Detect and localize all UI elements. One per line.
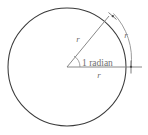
label-horizontal-radius: r [97, 70, 101, 80]
radian-diagram-canvas: r r r 1 radian [0, 0, 148, 135]
arc-length-indicator [114, 14, 132, 68]
arc-end-arrowhead [130, 66, 132, 68]
radian-diagram-figure: r r r 1 radian [0, 0, 148, 135]
arc-start-arrowhead [112, 15, 114, 17]
label-slanted-radius: r [76, 34, 80, 44]
label-angle-value: 1 radian [82, 58, 113, 68]
label-arc-radius: r [124, 30, 128, 40]
